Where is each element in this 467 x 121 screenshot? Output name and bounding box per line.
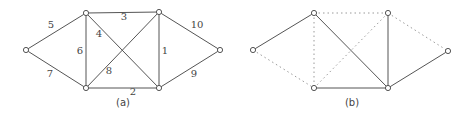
node-tl (83, 10, 88, 15)
edge-weight-label: 2 (130, 86, 136, 97)
node-bl (311, 85, 316, 90)
edge-weight-label: 4 (96, 28, 102, 39)
edge-br-r (388, 51, 448, 88)
node-tr (385, 10, 390, 15)
figure-a-caption: (a) (116, 97, 130, 108)
edge-l-bl (253, 50, 314, 88)
edge-weight-label: 6 (77, 45, 83, 56)
node-r (217, 47, 222, 52)
node-br (156, 85, 161, 90)
edge-weight-label: 10 (191, 19, 204, 30)
edge-tr-r (388, 13, 448, 51)
edge-l-bl (26, 50, 86, 88)
figure-b-caption: (b) (345, 97, 359, 108)
node-tl (311, 10, 316, 15)
figure-b-spanning-tree: (b) (250, 10, 450, 108)
edge-weight-label: 8 (106, 65, 112, 76)
node-l (23, 47, 28, 52)
edge-br-r (159, 50, 220, 88)
edge-tl-br (314, 13, 388, 88)
edge-weight-label: 7 (47, 68, 53, 79)
node-l (250, 47, 255, 52)
node-r (445, 48, 450, 53)
edge-weight-label: 5 (48, 19, 54, 30)
node-br (385, 85, 390, 90)
figure-b-edges (253, 13, 448, 88)
edge-l-tl (253, 13, 314, 50)
node-tr (156, 9, 161, 14)
edge-weight-label: 3 (121, 11, 127, 22)
edge-weight-label: 9 (191, 68, 197, 79)
figure-a-weighted-graph: 12345678910 (a) (23, 9, 222, 108)
edge-weight-label: 1 (162, 45, 168, 56)
node-bl (83, 85, 88, 90)
graph-canvas: 12345678910 (a) (b) (0, 0, 467, 121)
